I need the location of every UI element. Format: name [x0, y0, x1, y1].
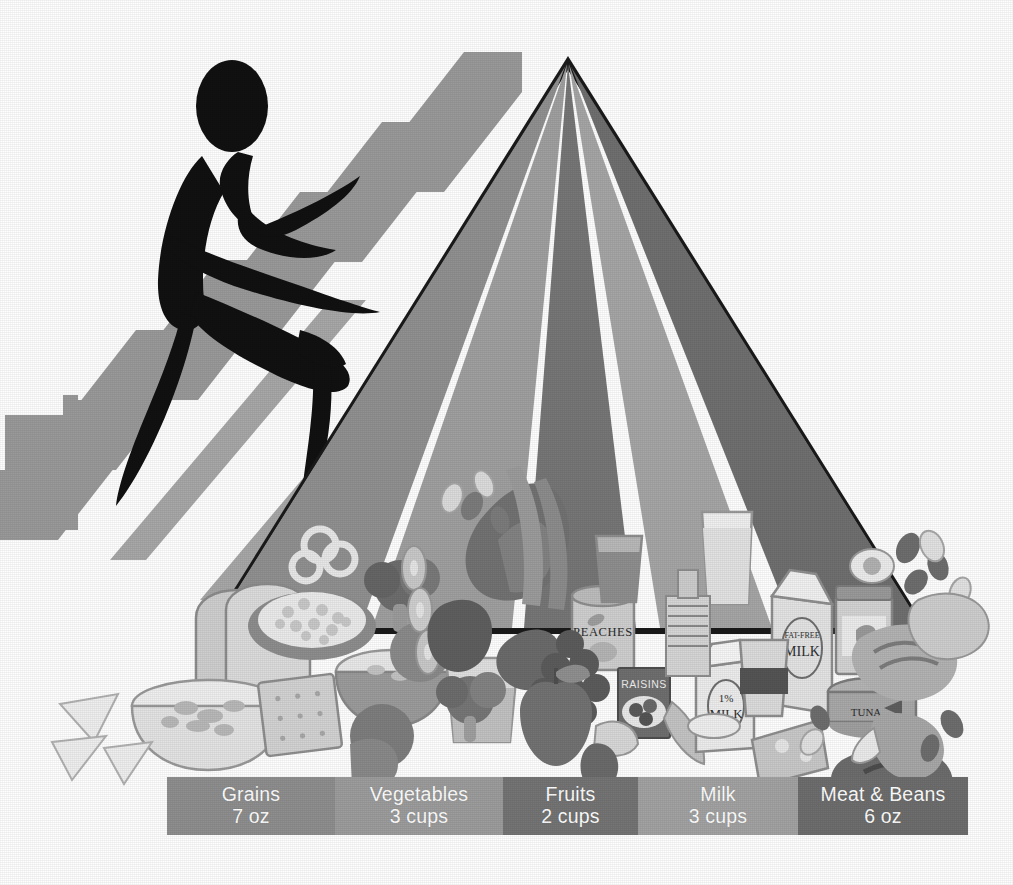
- one-percent-label-line1: 1%: [719, 692, 734, 704]
- mypyramid-poster: PEACHES RAISINS: [0, 0, 1013, 885]
- fat-free-label-line1: FAT-FREE: [784, 631, 819, 640]
- band-fruits-name: Fruits: [546, 784, 596, 806]
- band-milk-name: Milk: [700, 784, 735, 806]
- band-meat-beans[interactable]: Meat & Beans 6 oz: [798, 777, 968, 835]
- band-meat-beans-amount: 6 oz: [864, 806, 902, 828]
- band-vegetables-amount: 3 cups: [390, 806, 449, 828]
- peaches-label: PEACHES: [573, 625, 633, 639]
- band-milk[interactable]: Milk 3 cups: [638, 777, 798, 835]
- band-milk-amount: 3 cups: [689, 806, 748, 828]
- poster-artwork: PEACHES RAISINS: [0, 0, 1013, 885]
- band-fruits[interactable]: Fruits 2 cups: [503, 777, 638, 835]
- band-vegetables-name: Vegetables: [370, 784, 469, 806]
- fat-free-label-line2: MILK: [784, 644, 820, 659]
- band-grains-name: Grains: [222, 784, 281, 806]
- band-vegetables[interactable]: Vegetables 3 cups: [335, 777, 503, 835]
- band-meat-beans-name: Meat & Beans: [821, 784, 946, 806]
- band-grains-amount: 7 oz: [232, 806, 270, 828]
- band-grains[interactable]: Grains 7 oz: [167, 777, 335, 835]
- band-fruits-amount: 2 cups: [541, 806, 600, 828]
- raisins-label: RAISINS: [621, 678, 667, 690]
- food-group-label-bar: Grains 7 oz Vegetables 3 cups Fruits 2 c…: [167, 777, 968, 835]
